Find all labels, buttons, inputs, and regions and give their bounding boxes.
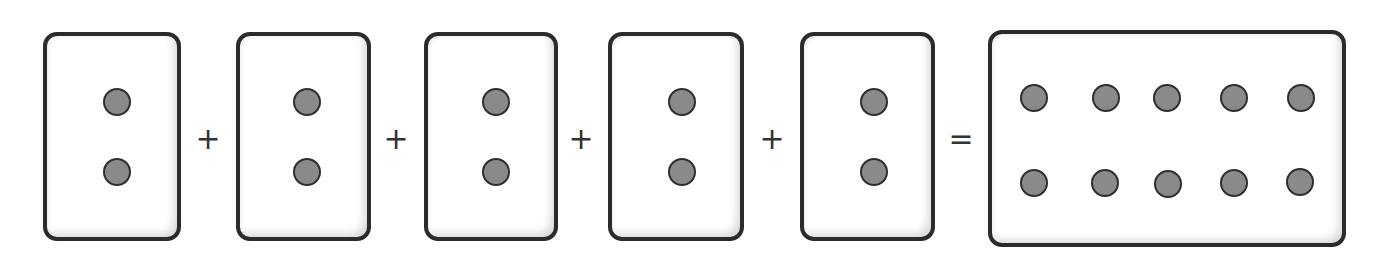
dot: [482, 88, 510, 116]
dot: [1091, 169, 1119, 197]
dot: [103, 88, 131, 116]
addend-card-1: [43, 32, 181, 241]
dot: [1286, 168, 1314, 196]
plus-sign: +: [383, 124, 408, 154]
dot: [1153, 84, 1181, 112]
dot: [668, 158, 696, 186]
plus-sign: +: [195, 124, 220, 154]
dot: [1154, 170, 1182, 198]
addend-card-5: [800, 32, 935, 241]
addend-card-3: [424, 32, 558, 241]
dot: [293, 158, 321, 186]
result-card: [988, 30, 1346, 247]
dot: [1020, 84, 1048, 112]
dot: [1092, 84, 1120, 112]
dot: [482, 158, 510, 186]
dot: [1220, 169, 1248, 197]
plus-sign: +: [568, 124, 593, 154]
plus-sign: +: [759, 124, 784, 154]
dot: [103, 158, 131, 186]
dot: [1220, 84, 1248, 112]
addend-card-4: [608, 32, 744, 241]
dot: [668, 88, 696, 116]
dot: [1287, 84, 1315, 112]
dot: [1020, 169, 1048, 197]
addend-card-2: [236, 32, 371, 241]
equals-sign: =: [948, 124, 973, 154]
dot: [860, 88, 888, 116]
dot: [860, 158, 888, 186]
dot: [293, 88, 321, 116]
